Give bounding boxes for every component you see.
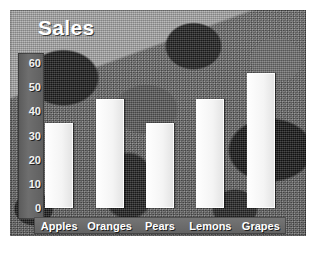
category-label-lemons: Lemons xyxy=(189,220,231,231)
sales-bar-chart-figure: Sales 0102030405060 ApplesOrangesPearsLe… xyxy=(0,0,316,256)
bar-grapes xyxy=(247,73,275,208)
category-label-oranges: Oranges xyxy=(87,220,132,231)
category-axis-band: ApplesOrangesPearsLemonsGrapes xyxy=(34,217,286,234)
category-label-apples: Apples xyxy=(41,220,78,231)
bar-pears xyxy=(146,123,174,208)
category-label-grapes: Grapes xyxy=(242,220,280,231)
bar-lemons xyxy=(196,99,224,208)
bar-oranges xyxy=(96,99,124,208)
category-label-pears: Pears xyxy=(145,220,175,231)
bar-apples xyxy=(45,123,73,208)
